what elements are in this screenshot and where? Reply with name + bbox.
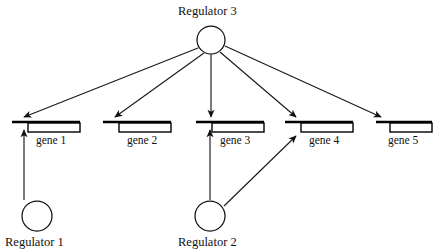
gene-2-label: gene 2 bbox=[127, 135, 157, 147]
diagram-canvas: gene 1 gene 2 gene 3 gene 4 gene 5 Regul… bbox=[0, 0, 436, 250]
regulator-2-node[interactable] bbox=[195, 201, 225, 231]
regulator-2-label: Regulator 2 bbox=[178, 236, 237, 249]
gene-5-glyph[interactable] bbox=[376, 122, 432, 132]
gene-4-label: gene 4 bbox=[309, 135, 339, 147]
edge-regulator3-gene2 bbox=[115, 53, 204, 117]
gene-4-glyph[interactable] bbox=[285, 122, 353, 132]
gene-4-orf-box bbox=[301, 123, 353, 132]
gene-5-orf-box bbox=[390, 123, 432, 132]
gene-5-label: gene 5 bbox=[388, 135, 418, 147]
gene-3-orf-box bbox=[212, 123, 264, 132]
regulator-1-label: Regulator 1 bbox=[5, 236, 64, 249]
gene-1-glyph[interactable] bbox=[12, 122, 80, 132]
gene-1-orf-box bbox=[28, 123, 80, 132]
regulator-3-label: Regulator 3 bbox=[178, 5, 237, 18]
gene-3-glyph[interactable] bbox=[196, 122, 264, 132]
genes-group bbox=[12, 122, 432, 132]
gene-1-label: gene 1 bbox=[36, 135, 66, 147]
edge-regulator3-gene1 bbox=[24, 48, 198, 117]
gene-2-orf-box bbox=[119, 123, 171, 132]
edge-regulator3-gene4 bbox=[220, 52, 296, 117]
edge-regulator2-gene4 bbox=[224, 136, 296, 206]
gene-2-glyph[interactable] bbox=[103, 122, 171, 132]
diagram-svg bbox=[0, 0, 436, 250]
regulator-3-node[interactable] bbox=[197, 26, 225, 54]
regulator-1-node[interactable] bbox=[22, 201, 52, 231]
edge-regulator3-gene5 bbox=[225, 46, 381, 117]
gene-3-label: gene 3 bbox=[220, 135, 250, 147]
